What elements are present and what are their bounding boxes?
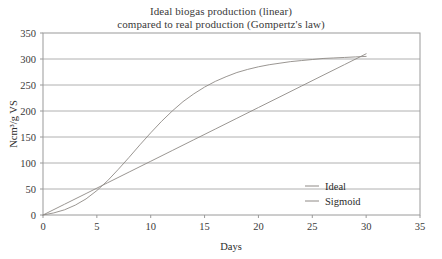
y-tick-label-150: 150 (20, 132, 36, 143)
y-axis-title: Ncm³/g VS (8, 100, 19, 148)
chart-plot-area: 050100150200250300350 05101520253035 Day… (0, 0, 442, 259)
x-axis-tick-labels: 05101520253035 (40, 221, 425, 232)
legend-label-ideal: Ideal (325, 181, 346, 192)
x-tick-label-35: 35 (415, 221, 426, 232)
x-tick-label-20: 20 (253, 221, 264, 232)
x-tick-label-10: 10 (145, 221, 156, 232)
x-tick-label-5: 5 (94, 221, 99, 232)
legend-label-sigmoid: Sigmoid (325, 196, 361, 207)
y-tick-label-100: 100 (20, 158, 36, 169)
y-tick-label-250: 250 (20, 80, 36, 91)
y-tick-label-300: 300 (20, 54, 36, 65)
x-axis-title: Days (220, 241, 242, 252)
x-tick-label-15: 15 (199, 221, 210, 232)
x-tick-label-0: 0 (40, 221, 45, 232)
y-tick-label-50: 50 (26, 184, 37, 195)
y-tick-label-350: 350 (20, 28, 36, 39)
y-tick-label-200: 200 (20, 106, 36, 117)
y-tick-label-0: 0 (31, 210, 36, 221)
chart-figure: Ideal biogas production (linear) compare… (0, 0, 442, 259)
x-tick-label-30: 30 (361, 221, 372, 232)
x-tick-label-25: 25 (307, 221, 318, 232)
y-axis-tick-labels: 050100150200250300350 (20, 28, 36, 221)
